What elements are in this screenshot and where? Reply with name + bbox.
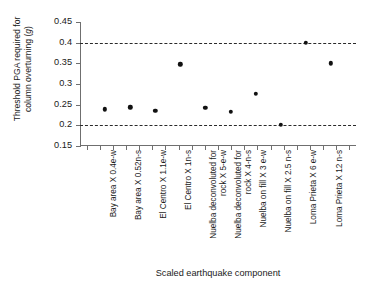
data-point (228, 109, 232, 113)
y-tick-label: 0.3 (59, 78, 72, 88)
x-tick-label: Nuelba on fill X 3 e-w (259, 150, 269, 258)
x-tick-label: El Centro X 1n-s (184, 150, 194, 258)
x-tick-label: El Centro X 1.1e-w (159, 150, 169, 258)
plot-area: 0.150.20.250.30.350.40.45 (80, 22, 356, 146)
x-tick-label-line: Nuelba deconvoluted for (234, 150, 244, 258)
data-point (253, 92, 257, 96)
y-axis-title-line-2-text: column overturning ( (23, 34, 33, 112)
x-tick-label: Nuelba deconvoluted forrock X 5-e-w (209, 150, 228, 258)
x-tick-label-line: Loma Prieta X 12 n-s (335, 150, 345, 258)
x-tick-label: Nuelba deconvoluted forrock X 4-n-s (234, 150, 253, 258)
y-tick-label: 0.2 (59, 119, 72, 129)
x-tick-label: Bay area X 0.52n-s (134, 150, 144, 258)
x-tick-label-line: Nuelba on fill X 3 e-w (259, 150, 269, 258)
y-tick-label: 0.15 (54, 140, 72, 150)
chart-figure: Threshold PGA required for column overtu… (0, 0, 369, 299)
data-point (329, 61, 333, 65)
x-tick-label-line: El Centro X 1.1e-w (159, 150, 169, 258)
y-tick-label: 0.45 (54, 16, 72, 26)
reference-line-0.4 (80, 43, 356, 44)
x-tick-label-line: Bay area X 0.52n-s (134, 150, 144, 258)
x-tick-label-line: rock X 4-n-s (244, 150, 254, 258)
data-point (128, 105, 132, 109)
y-tick-label: 0.4 (59, 37, 72, 47)
data-point (279, 123, 283, 127)
y-axis-title: Threshold PGA required for column overtu… (0, 0, 46, 150)
y-tick-0.25: 0.25 (76, 105, 81, 106)
x-tick-label: Loma Prieta X 6 e-w (309, 150, 319, 258)
x-tick-label-line: Nuelba on fill X 2.5 n-s (284, 150, 294, 258)
y-tick-mark (76, 84, 81, 85)
y-tick-0.35: 0.35 (76, 63, 81, 64)
y-tick-mark (76, 22, 81, 23)
x-tick-label-line: Loma Prieta X 6 e-w (309, 150, 319, 258)
y-tick-label: 0.35 (54, 57, 72, 67)
data-point (178, 62, 182, 66)
y-axis-title-paren-close: ) (23, 26, 33, 29)
x-axis-title: Scaled earthquake component (80, 268, 356, 278)
y-tick-mark (76, 146, 81, 147)
x-tick-label-line: Nuelba deconvoluted for (209, 150, 219, 258)
y-tick-mark (76, 63, 81, 64)
y-axis-title-line-1: Threshold PGA required for (12, 17, 23, 122)
y-tick-mark (76, 105, 81, 106)
x-axis-tick-labels: Bay area X 0.4e-wBay area X 0.52n-sEl Ce… (80, 150, 356, 258)
reference-line-0.2 (80, 125, 356, 126)
y-tick-label: 0.25 (54, 99, 72, 109)
x-tick-label: Loma Prieta X 12 n-s (335, 150, 345, 258)
x-tick-label: Nuelba on fill X 2.5 n-s (284, 150, 294, 258)
y-tick-0.45: 0.45 (76, 22, 81, 23)
y-axis-unit-g: g (23, 29, 33, 34)
data-point (203, 106, 207, 110)
data-point (304, 40, 308, 44)
y-tick-0.3: 0.3 (76, 84, 81, 85)
x-tick-label-line: Bay area X 0.4e-w (109, 150, 119, 258)
x-tick-label-line: El Centro X 1n-s (184, 150, 194, 258)
y-axis-title-line-2: column overturning (g) (23, 26, 34, 112)
x-tick-label-line: rock X 5-e-w (219, 150, 229, 258)
y-tick-0.15: 0.15 (76, 146, 81, 147)
x-tick-label: Bay area X 0.4e-w (109, 150, 119, 258)
data-point (103, 107, 107, 111)
data-point (153, 109, 157, 113)
